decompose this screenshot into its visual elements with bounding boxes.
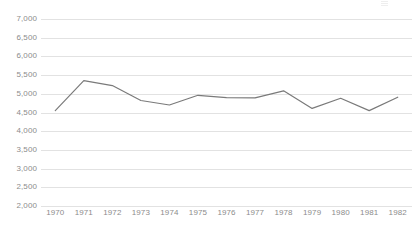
y-axis-tick-label: 3,000 (0, 165, 37, 173)
y-axis-tick-label: 2,000 (0, 202, 37, 210)
x-axis-tick-label: 1978 (274, 208, 292, 218)
x-axis: 1970197119721973197419751976197719781979… (41, 208, 412, 224)
y-axis-tick-label: 2,500 (0, 183, 37, 191)
x-axis-tick-label: 1972 (103, 208, 121, 218)
y-axis-tick-label: 6,500 (0, 34, 37, 42)
x-axis-tick-label: 1974 (160, 208, 178, 218)
gridline (41, 206, 412, 207)
x-axis-tick-label: 1980 (332, 208, 350, 218)
y-axis-tick-label: 5,000 (0, 90, 37, 98)
corner-artifact-icon (381, 1, 388, 6)
x-axis-tick-label: 1977 (246, 208, 264, 218)
plot-area (41, 19, 412, 206)
x-axis-tick-label: 1971 (75, 208, 93, 218)
y-axis-tick-label: 5,500 (0, 71, 37, 79)
y-axis-tick-label: 7,000 (0, 15, 37, 23)
y-axis-tick-label: 3,500 (0, 146, 37, 154)
x-axis-tick-label: 1976 (217, 208, 235, 218)
x-axis-tick-label: 1970 (46, 208, 64, 218)
line-chart: 2,0002,5003,0003,5004,0004,5005,0005,500… (0, 0, 419, 234)
x-axis-tick-label: 1982 (389, 208, 407, 218)
x-axis-tick-label: 1975 (189, 208, 207, 218)
y-axis-tick-label: 4,500 (0, 109, 37, 117)
y-axis-tick-label: 4,000 (0, 127, 37, 135)
x-axis-tick-label: 1981 (360, 208, 378, 218)
y-axis: 2,0002,5003,0003,5004,0004,5005,0005,500… (0, 19, 37, 206)
x-axis-tick-label: 1973 (132, 208, 150, 218)
data-series-line (41, 19, 412, 206)
x-axis-tick-label: 1979 (303, 208, 321, 218)
series-line-0 (55, 81, 397, 111)
y-axis-tick-label: 6,000 (0, 52, 37, 60)
